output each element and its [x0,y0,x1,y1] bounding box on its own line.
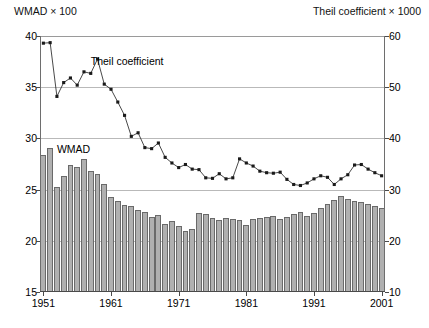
bar [128,206,134,292]
theil-data-marker [55,95,58,98]
bar [216,220,222,292]
theil-data-marker [82,70,85,73]
bar [142,212,148,292]
bar [270,216,276,292]
bar [352,201,358,292]
bar [162,224,168,292]
right-axis-caption: Theil coefficient × 1000 [313,5,421,17]
theil-data-marker [69,76,72,79]
theil-data-marker [204,176,207,179]
bar [250,219,256,292]
wmad-annotation: WMAD [57,143,90,155]
bar [115,201,121,292]
left-tick-mark [36,241,40,242]
bar [88,171,94,292]
theil-data-marker [157,141,160,144]
theil-data-marker [333,183,336,186]
chart-container: WMAD × 100 Theil coefficient × 1000 Thei… [0,0,429,328]
theil-data-marker [346,173,349,176]
right-tick-label: 20 [389,235,401,247]
bar [230,219,236,292]
bar [291,214,297,292]
bar [358,202,364,292]
right-tick-mark [385,87,389,88]
right-tick-label: 40 [389,132,401,144]
bar [183,231,189,292]
bar [345,199,351,292]
bar [122,205,128,292]
right-tick-mark [385,292,389,293]
bar [108,197,114,292]
bar [189,229,195,292]
theil-data-marker [177,166,180,169]
bar [243,225,249,292]
theil-data-marker [373,171,376,174]
plot-area: Theil coefficient WMAD 152025303540 1020… [40,36,385,292]
bar [223,218,229,292]
theil-data-marker [116,101,119,104]
theil-data-marker [380,174,383,177]
theil-data-marker [292,183,295,186]
bar [149,217,155,292]
bar [81,159,87,292]
theil-data-marker [42,42,45,45]
left-tick-mark [36,87,40,88]
theil-annotation: Theil coefficient [91,55,164,67]
bar [47,148,53,292]
bar [304,216,310,292]
bar [210,218,216,292]
bar [61,176,67,292]
x-tick-label: 1961 [99,297,122,309]
theil-data-marker [339,177,342,180]
left-axis-caption: WMAD × 100 [14,5,77,17]
theil-data-marker [49,41,52,44]
bar [74,167,80,292]
theil-data-marker [224,177,227,180]
x-tick-mark [382,292,383,296]
theil-data-marker [252,165,255,168]
theil-data-marker [170,161,173,164]
theil-data-marker [211,177,214,180]
bar [40,155,46,292]
right-tick-label: 30 [389,184,401,196]
bar [277,219,283,292]
bar [365,204,371,292]
bar [264,217,270,292]
x-tick-label: 1981 [235,297,258,309]
bar [331,200,337,292]
x-tick-mark [246,292,247,296]
bar [196,213,202,292]
gridline [40,87,385,88]
theil-data-marker [143,146,146,149]
bar [95,174,101,292]
right-axis-line [384,36,385,292]
bar [54,187,60,292]
theil-data-marker [285,178,288,181]
theil-data-marker [103,83,106,86]
bar [169,221,175,292]
theil-data-marker [231,176,234,179]
plot-top-border [40,36,385,37]
bar [203,214,209,292]
bar [338,196,344,292]
x-tick-label: 1971 [167,297,190,309]
theil-data-marker [89,72,92,75]
theil-data-marker [360,163,363,166]
theil-data-marker [191,168,194,171]
theil-data-marker [197,168,200,171]
bar [298,212,304,292]
theil-data-marker [353,163,356,166]
theil-data-marker [184,163,187,166]
theil-data-marker [279,171,282,174]
right-tick-label: 50 [389,81,401,93]
x-tick-mark [314,292,315,296]
bar [325,204,331,292]
left-tick-mark [36,138,40,139]
x-tick-mark [179,292,180,296]
x-axis-line [40,291,385,292]
bar [318,208,324,292]
theil-data-marker [62,81,65,84]
theil-data-marker [319,174,322,177]
bar [257,218,263,292]
bar [101,184,107,292]
